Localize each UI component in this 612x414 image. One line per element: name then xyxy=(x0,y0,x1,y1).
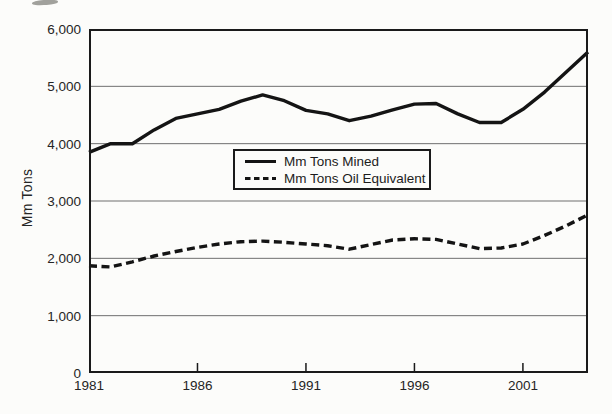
plot-area xyxy=(89,29,588,373)
y-tick-label: 3,000 xyxy=(47,194,81,209)
y-tick-label: 4,000 xyxy=(47,136,81,151)
y-tick-label: 2,000 xyxy=(47,251,81,266)
legend-label-mined: Mm Tons Mined xyxy=(284,154,379,169)
solid-line-sample-icon xyxy=(244,158,277,165)
x-axis-tick-labels: 19811986199119962001 xyxy=(0,378,612,398)
series-oil-equivalent-line xyxy=(89,215,588,267)
legend: Mm Tons Mined Mm Tons Oil Equivalent xyxy=(233,149,431,190)
y-tick-label: 1,000 xyxy=(47,308,81,323)
legend-item-mined: Mm Tons Mined xyxy=(244,154,429,169)
x-axis-tick-marks xyxy=(197,363,522,371)
legend-label-oil-equivalent: Mm Tons Oil Equivalent xyxy=(284,171,426,186)
y-tick-label: 5,000 xyxy=(47,79,81,94)
y-axis-tick-labels: 01,0002,0003,0004,0005,0006,000 xyxy=(0,0,81,414)
x-tick-label: 1981 xyxy=(74,378,104,393)
x-tick-label: 1996 xyxy=(399,378,429,393)
x-tick-label: 2001 xyxy=(508,378,538,393)
y-tick-label: 6,000 xyxy=(47,22,81,37)
dashed-line-sample-icon xyxy=(244,175,277,182)
legend-item-oil-equivalent: Mm Tons Oil Equivalent xyxy=(244,171,429,186)
x-tick-label: 1986 xyxy=(182,378,212,393)
gridlines xyxy=(89,86,588,315)
series-mined-line xyxy=(89,52,588,152)
x-tick-label: 1991 xyxy=(291,378,321,393)
line-chart-figure: Mm Tons 01,0002,0003,0004,0005,0006,000 … xyxy=(0,0,612,414)
